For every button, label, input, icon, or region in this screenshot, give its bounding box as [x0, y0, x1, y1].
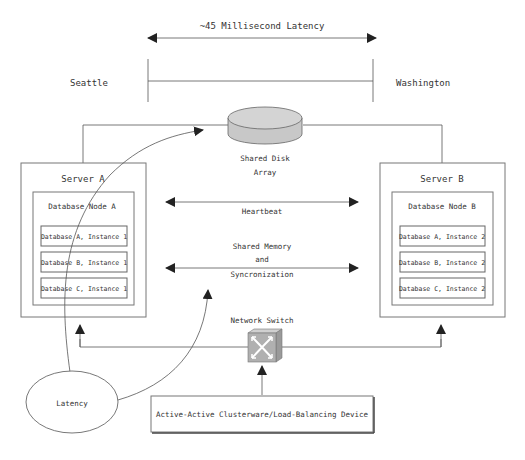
network-switch-label: Network Switch: [230, 316, 293, 325]
shared-memory-label-2: and: [255, 255, 269, 264]
latency-bubble-label: Latency: [56, 399, 88, 408]
shared-disk-label-1: Shared Disk: [240, 154, 290, 163]
disk-to-server-a-line: [83, 125, 228, 163]
switch-to-server-b-line: [280, 339, 441, 347]
shared-disk-icon: [228, 107, 302, 144]
instance-a1: Database A, Instance 1: [41, 226, 127, 246]
shared-disk-label-2: Array: [254, 168, 277, 177]
site-seattle-label: Seattle: [70, 78, 108, 88]
instance-label: Database C, Instance 2: [399, 285, 485, 293]
node-a-title: Database Node A: [48, 202, 116, 211]
server-a: Server A Database Node A Database A, Ins…: [21, 163, 146, 317]
server-b: Server B Database Node B Database A, Ins…: [380, 163, 505, 317]
instance-a3: Database C, Instance 1: [41, 278, 127, 298]
network-switch-icon: [248, 329, 282, 362]
latency-span-label: ~45 Millisecond Latency: [200, 21, 325, 31]
cluster-diagram: ~45 Millisecond Latency Seattle Washingt…: [0, 0, 525, 460]
heartbeat-label: Heartbeat: [242, 207, 283, 216]
instance-b1: Database A, Instance 2: [399, 226, 485, 246]
disk-to-server-b-line: [303, 125, 442, 163]
server-b-title: Server B: [420, 174, 463, 184]
latency-span: ~45 Millisecond Latency: [148, 21, 376, 38]
shared-memory-label-1: Shared Memory: [233, 242, 292, 251]
shared-memory-label-3: Syncronization: [230, 270, 293, 279]
site-washington-label: Washington: [396, 78, 450, 88]
instance-label: Database B, Instance 2: [399, 259, 485, 267]
node-b-title: Database Node B: [408, 202, 476, 211]
instance-b3: Database C, Instance 2: [399, 278, 485, 298]
instance-label: Database B, Instance 1: [41, 259, 127, 267]
switch-to-server-a-line: [80, 339, 248, 347]
instance-label: Database A, Instance 1: [41, 233, 127, 241]
server-a-title: Server A: [61, 174, 105, 184]
instance-b2: Database B, Instance 2: [399, 252, 485, 272]
instance-label: Database C, Instance 1: [41, 285, 127, 293]
instance-label: Database A, Instance 2: [399, 233, 485, 241]
site-divider: [148, 59, 373, 102]
load-balancer-label: Active-Active Clusterware/Load-Balancing…: [156, 410, 369, 419]
instance-a2: Database B, Instance 1: [41, 252, 127, 272]
